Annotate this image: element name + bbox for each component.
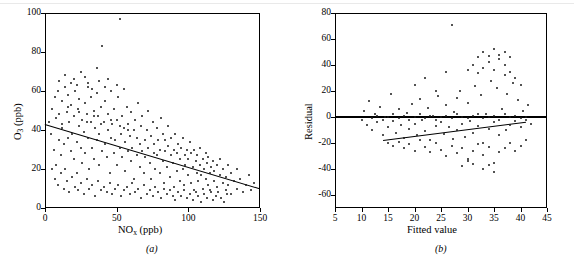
data-point <box>119 18 121 20</box>
data-point <box>440 116 442 118</box>
data-point <box>70 104 72 106</box>
x-tick-label: 20 <box>408 213 422 223</box>
data-point <box>435 90 437 92</box>
data-point <box>451 145 453 147</box>
data-point <box>96 67 98 69</box>
data-point <box>117 96 119 98</box>
data-point <box>520 84 522 86</box>
data-point <box>150 135 152 137</box>
y-tick <box>331 91 335 92</box>
data-point <box>182 137 184 139</box>
data-point <box>408 119 410 121</box>
x-tick-label: 50 <box>110 213 124 223</box>
data-point <box>199 164 201 166</box>
data-point <box>63 188 65 190</box>
data-point <box>139 143 141 145</box>
data-point <box>398 108 400 110</box>
data-point <box>505 129 507 131</box>
data-point <box>190 182 192 184</box>
panel-a: O3 (ppb) NOx (ppb) (a) 05010015002040608… <box>0 0 287 265</box>
data-point <box>509 116 511 118</box>
y-tick-label: 100 <box>13 7 41 17</box>
data-point <box>205 178 207 180</box>
data-point <box>180 147 182 149</box>
data-point <box>195 160 197 162</box>
data-point <box>53 149 55 151</box>
data-point <box>143 172 145 174</box>
data-point <box>472 150 474 152</box>
data-point <box>379 106 381 108</box>
data-point <box>149 162 151 164</box>
y-tick-label: 60 <box>303 33 331 43</box>
y-tick <box>331 143 335 144</box>
data-point <box>113 108 115 110</box>
data-point <box>119 125 121 127</box>
data-point <box>382 119 384 121</box>
data-point <box>66 180 68 182</box>
x-tick <box>188 208 189 212</box>
data-point <box>96 92 98 94</box>
data-point <box>137 102 139 104</box>
data-point <box>179 180 181 182</box>
data-point <box>493 162 495 164</box>
data-point <box>509 142 511 144</box>
data-point <box>186 149 188 151</box>
y-tick <box>331 13 335 14</box>
data-point <box>139 166 141 168</box>
y-tick-label: 0 <box>303 111 331 121</box>
data-point <box>245 184 247 186</box>
x-tick <box>441 208 442 212</box>
data-point <box>120 133 122 135</box>
data-point <box>109 172 111 174</box>
data-point <box>504 51 506 53</box>
panel-b: Residual Fitted value (b) 51015202530354… <box>287 0 574 265</box>
data-point <box>435 119 437 121</box>
data-point <box>199 147 201 149</box>
data-point <box>167 145 169 147</box>
data-point <box>193 149 195 151</box>
data-point <box>189 141 191 143</box>
data-point <box>76 84 78 86</box>
data-point <box>236 188 238 190</box>
data-point <box>504 64 506 66</box>
data-point <box>173 186 175 188</box>
data-point <box>509 124 511 126</box>
data-point <box>456 97 458 99</box>
x-tick <box>45 208 46 212</box>
x-tick <box>362 208 363 212</box>
data-point <box>488 116 490 118</box>
data-point <box>480 94 482 96</box>
data-point <box>54 96 56 98</box>
data-point <box>488 164 490 166</box>
x-tick-label: 40 <box>514 213 528 223</box>
data-point <box>67 106 69 108</box>
data-point <box>222 168 224 170</box>
data-point <box>103 121 105 123</box>
x-tick-label: 25 <box>434 213 448 223</box>
x-tick <box>494 208 495 212</box>
x-tick <box>521 208 522 212</box>
data-point <box>156 127 158 129</box>
data-point <box>509 71 511 73</box>
data-point <box>137 188 139 190</box>
data-point <box>126 186 128 188</box>
data-point <box>162 160 164 162</box>
x-axis-label-b: Fitted value <box>407 224 457 235</box>
data-point <box>152 121 154 123</box>
data-point <box>57 90 59 92</box>
data-point <box>116 84 118 86</box>
data-point <box>248 174 250 176</box>
data-point <box>411 103 413 105</box>
data-point <box>147 147 149 149</box>
data-point <box>83 131 85 133</box>
x-tick <box>547 208 548 212</box>
data-point <box>147 110 149 112</box>
data-point <box>159 172 161 174</box>
y-tick <box>331 65 335 66</box>
data-point <box>225 176 227 178</box>
data-point <box>233 180 235 182</box>
data-point <box>414 84 416 86</box>
data-point <box>133 129 135 131</box>
data-point <box>143 184 145 186</box>
x-tick-label: 35 <box>487 213 501 223</box>
